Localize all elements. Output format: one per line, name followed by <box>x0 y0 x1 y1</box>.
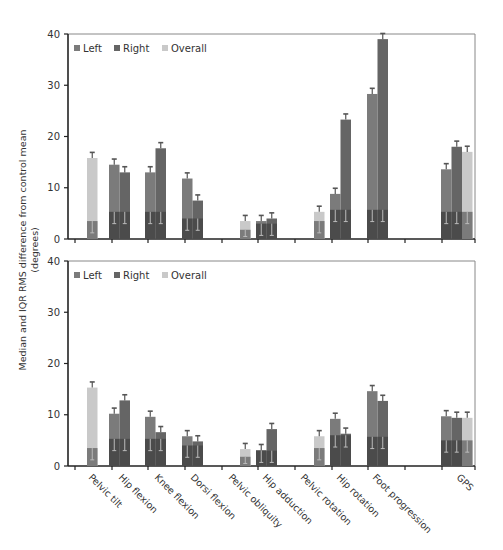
top-chart-panel: 010203040LeftRightOverall <box>47 29 475 245</box>
bar-hip-rotation-right <box>341 428 352 466</box>
y-tick-label: 40 <box>47 256 60 267</box>
bar-hip-adduction-left <box>256 444 267 466</box>
y-axis-title: Median and IQR RMS difference from contr… <box>17 130 40 371</box>
bar-knee-flexion-right <box>156 143 167 239</box>
bar-gps-right <box>452 412 463 466</box>
bar-knee-flexion-left <box>145 167 156 239</box>
bar-dorsi-flexion-left <box>182 173 193 239</box>
bar-pelvic-obliquity-overall <box>240 443 251 466</box>
bar-gps-left <box>441 411 452 466</box>
bar-pelvic-tilt-overall <box>87 382 98 466</box>
y-tick-label: 20 <box>47 358 60 369</box>
legend-label-overall: Overall <box>171 270 207 281</box>
y-tick-label: 40 <box>47 29 60 40</box>
chart-canvas: 010203040LeftRightOverall 010203040LeftR… <box>0 0 503 550</box>
bar-hip-flexion-left <box>109 408 120 466</box>
y-tick-label: 30 <box>47 307 60 318</box>
bar-hip-flexion-right <box>120 167 131 239</box>
y-tick-label: 0 <box>54 234 60 245</box>
y-axis-title-line2: (degrees) <box>29 227 40 273</box>
legend-label-left: Left <box>83 270 102 281</box>
x-axis-category-labels: Pelvic tiltHip flexionKnee flexionDorsi … <box>87 472 476 536</box>
bar-pelvic-rotation-overall <box>314 206 325 239</box>
y-tick-label: 20 <box>47 131 60 142</box>
bar-hip-rotation-left <box>330 413 341 466</box>
bar-dorsi-flexion-left <box>182 431 193 466</box>
legend-label-overall: Overall <box>171 43 207 54</box>
bar-hip-rotation-left <box>330 188 341 239</box>
bar-gps-overall <box>462 412 473 466</box>
x-category-label: Foot progression <box>371 472 435 536</box>
bar-gps-left <box>441 164 452 239</box>
x-category-label: GPS <box>455 472 476 493</box>
bar-foot-progression-right <box>378 33 389 239</box>
bar-foot-progression-right <box>378 395 389 466</box>
y-tick-label: 30 <box>47 80 60 91</box>
y-tick-label: 10 <box>47 182 60 193</box>
y-tick-label: 10 <box>47 409 60 420</box>
bar-gps-overall <box>462 146 473 239</box>
legend-label-right: Right <box>123 43 149 54</box>
legend-swatch-left <box>74 272 80 278</box>
legend: LeftRightOverall <box>74 43 207 54</box>
bar-hip-flexion-right <box>120 395 131 466</box>
bar-foot-progression-left <box>367 386 378 466</box>
bar-knee-flexion-left <box>145 411 156 466</box>
legend-swatch-right <box>114 45 120 51</box>
bar-dorsi-flexion-right <box>193 436 204 466</box>
legend: LeftRightOverall <box>74 270 207 281</box>
y-tick-label: 0 <box>54 461 60 472</box>
bottom-chart-panel: 010203040LeftRightOverall <box>47 256 475 472</box>
bar-pelvic-obliquity-overall <box>240 215 251 239</box>
legend-swatch-left <box>74 45 80 51</box>
legend-label-left: Left <box>83 43 102 54</box>
legend-swatch-right <box>114 272 120 278</box>
legend-swatch-overall <box>162 45 168 51</box>
bar-knee-flexion-right <box>156 427 167 466</box>
bar-pelvic-tilt-overall <box>87 152 98 239</box>
bar-foot-progression-left <box>367 88 378 239</box>
legend-label-right: Right <box>123 270 149 281</box>
bar-hip-adduction-right <box>267 423 278 466</box>
bar-hip-flexion-left <box>109 159 120 239</box>
y-axis-title-line1: Median and IQR RMS difference from contr… <box>17 130 28 371</box>
bar-dorsi-flexion-right <box>193 195 204 239</box>
bar-gps-right <box>452 141 463 239</box>
legend-swatch-overall <box>162 272 168 278</box>
bar-hip-adduction-right <box>267 213 278 239</box>
bar-hip-adduction-left <box>256 215 267 239</box>
bar-hip-rotation-right <box>341 114 352 239</box>
bar-pelvic-rotation-overall <box>314 431 325 466</box>
